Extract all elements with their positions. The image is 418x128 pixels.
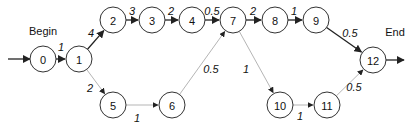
- node-12: 12: [360, 47, 386, 73]
- node-label: 12: [367, 55, 379, 67]
- edge-weight-7-8: 2: [249, 5, 256, 17]
- edge-weight-0-1: 1: [58, 41, 64, 53]
- node-3: 3: [139, 7, 165, 33]
- node-label: 6: [169, 100, 175, 112]
- node-label: 1: [76, 54, 82, 66]
- edge-weight-9-12: 0.5: [342, 27, 358, 39]
- node-2: 2: [100, 7, 126, 33]
- node-9: 9: [303, 7, 329, 33]
- node-7: 7: [220, 7, 246, 33]
- node-1: 1: [66, 46, 92, 72]
- node-label: 7: [230, 15, 236, 27]
- node-label: 3: [149, 15, 155, 27]
- edge-weight-11-12: 0.5: [346, 81, 362, 93]
- node-label: 9: [313, 15, 319, 27]
- node-label: 10: [274, 100, 286, 112]
- node-label: 2: [110, 15, 116, 27]
- node-label: 8: [272, 15, 278, 27]
- node-10: 10: [267, 92, 293, 118]
- edge-weight-7-10: 1: [243, 63, 249, 75]
- edge-weight-2-3: 3: [129, 5, 136, 17]
- edge-weight-8-9: 1: [291, 5, 297, 17]
- edge-weight-3-4: 2: [167, 5, 174, 17]
- node-0: 0: [30, 46, 56, 72]
- node-label: 0: [40, 54, 46, 66]
- edge-weight-1-2: 4: [88, 27, 94, 39]
- edge-weight-1-5: 2: [86, 82, 93, 94]
- node-label: 5: [110, 100, 116, 112]
- node-label: 11: [321, 100, 332, 112]
- edge-weight-4-7: 0.5: [204, 5, 220, 17]
- node-6: 6: [159, 92, 185, 118]
- node-5: 5: [100, 92, 126, 118]
- node-11: 11: [314, 92, 340, 118]
- edge-weight-6-7: 0.5: [203, 63, 219, 75]
- network-diagram: 0123478912561011 Begin End 14320.5210.52…: [0, 0, 418, 128]
- node-label: 4: [189, 15, 195, 27]
- edge-weight-10-11: 1: [297, 110, 303, 122]
- end-label: End: [385, 26, 405, 38]
- edge-weight-5-6: 1: [134, 112, 140, 124]
- node-4: 4: [179, 7, 205, 33]
- begin-label: Begin: [29, 25, 57, 37]
- node-8: 8: [262, 7, 288, 33]
